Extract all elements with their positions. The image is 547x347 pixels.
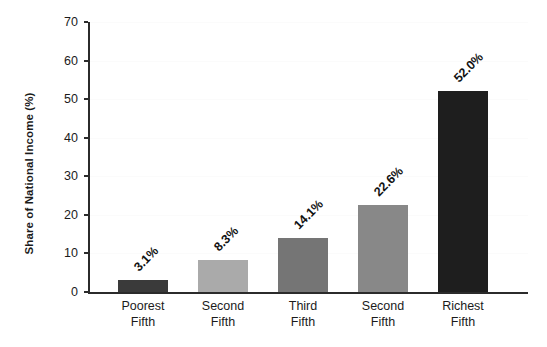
y-tick-label: 50: [64, 92, 78, 106]
bar-value-label: 3.1%: [131, 244, 161, 274]
x-axis-label-line: Third: [263, 298, 343, 314]
y-tick-mark: [84, 175, 88, 177]
bar-value-label: 52.0%: [451, 50, 486, 85]
plot-area: 010203040506070 3.1%8.3%14.1%22.6%52.0% …: [88, 22, 528, 292]
x-axis-label-line: Fifth: [103, 314, 183, 330]
x-axis-label-line: Poorest: [103, 298, 183, 314]
bar: 8.3%: [198, 260, 248, 292]
y-tick-label: 0: [71, 285, 78, 299]
y-axis-line: [88, 22, 90, 292]
x-axis-label-line: Fifth: [263, 314, 343, 330]
bar-value-label: 8.3%: [211, 224, 241, 254]
x-axis-label-line: Richest: [423, 298, 503, 314]
bar-value-label: 22.6%: [371, 164, 406, 199]
y-tick-label: 20: [64, 208, 78, 222]
y-tick-label: 60: [64, 54, 78, 68]
bar: 14.1%: [278, 238, 328, 292]
x-axis-label: PoorestFifth: [103, 298, 183, 330]
x-axis-label: ThirdFifth: [263, 298, 343, 330]
x-axis-label-line: Second: [183, 298, 263, 314]
y-tick-mark: [84, 98, 88, 100]
x-axis-label-line: Second: [343, 298, 423, 314]
gridline: [90, 61, 528, 62]
x-axis-label: SecondFifth: [343, 298, 423, 330]
y-tick-mark: [84, 21, 88, 23]
y-tick-mark: [84, 137, 88, 139]
y-tick-label: 30: [64, 169, 78, 183]
y-tick-mark: [84, 252, 88, 254]
y-tick-mark: [84, 60, 88, 62]
bar-rect: [358, 205, 408, 292]
bar-rect: [118, 280, 168, 292]
x-axis-label: RichestFifth: [423, 298, 503, 330]
bar: 52.0%: [438, 91, 488, 292]
x-axis-label-line: Fifth: [183, 314, 263, 330]
x-axis-label-line: Fifth: [423, 314, 503, 330]
y-axis-title: Share of National Income (%): [14, 0, 44, 347]
y-tick-mark: [84, 291, 88, 293]
y-tick-label: 70: [64, 15, 78, 29]
y-tick-label: 40: [64, 131, 78, 145]
x-axis-label: SecondFifth: [183, 298, 263, 330]
bar-rect: [278, 238, 328, 292]
x-axis-label-line: Fifth: [343, 314, 423, 330]
bar-rect: [198, 260, 248, 292]
bar-rect: [438, 91, 488, 292]
x-axis-line: [88, 292, 528, 294]
bar: 3.1%: [118, 280, 168, 292]
y-tick-mark: [84, 214, 88, 216]
gridline: [90, 22, 528, 23]
bar: 22.6%: [358, 205, 408, 292]
bar-chart: Share of National Income (%) 01020304050…: [0, 0, 547, 347]
y-tick-label: 10: [64, 246, 78, 260]
